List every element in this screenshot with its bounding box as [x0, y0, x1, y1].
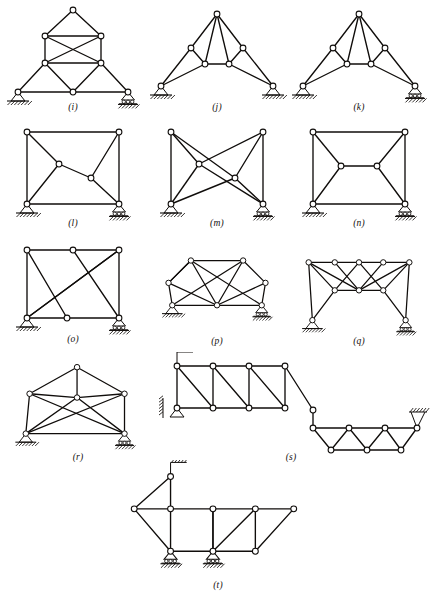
truss-member	[309, 262, 335, 290]
truss-member	[401, 428, 417, 450]
truss-joint	[42, 60, 48, 66]
ground-hatch	[16, 213, 41, 217]
truss-joint	[56, 161, 62, 167]
truss-member	[199, 164, 263, 204]
truss-svg-o	[0, 232, 146, 350]
members	[27, 250, 119, 318]
joints	[131, 474, 296, 555]
truss-joint	[282, 363, 288, 369]
ground-hatch	[292, 95, 317, 99]
figure-label-o: (o)	[0, 334, 146, 344]
truss-joint	[24, 129, 30, 135]
members	[161, 14, 273, 86]
wall-support-hanging	[409, 408, 429, 428]
truss-joint	[170, 303, 175, 308]
truss-member	[303, 64, 347, 86]
truss-joint	[188, 45, 194, 51]
truss-joint	[382, 45, 388, 51]
truss-joint	[70, 247, 76, 253]
ground-hatch	[115, 445, 135, 449]
roller-wheels	[399, 212, 411, 215]
truss-joint	[381, 260, 386, 265]
truss-member	[213, 366, 249, 408]
joints	[310, 129, 408, 207]
truss-member	[177, 366, 213, 408]
ground-hatch	[150, 95, 175, 99]
truss-svg-m	[144, 116, 290, 234]
truss-joint	[381, 288, 386, 293]
joints	[23, 364, 127, 436]
joints	[158, 11, 276, 89]
truss-joint	[412, 83, 418, 89]
truss-member	[349, 428, 367, 450]
wall-support-hatch	[171, 460, 188, 477]
truss-joint	[64, 315, 70, 321]
figure-label-j: (j)	[144, 102, 290, 112]
joints	[24, 129, 122, 207]
truss-member	[385, 48, 415, 86]
truss-member	[91, 178, 119, 204]
truss-diagram-k: (k)	[286, 0, 432, 118]
truss-member	[169, 283, 173, 305]
truss-member	[73, 250, 119, 318]
truss-joint	[158, 83, 164, 89]
truss-diagram-t: (t)	[112, 460, 324, 592]
truss-member	[91, 132, 119, 178]
truss-joint	[122, 391, 128, 397]
truss-diagram-i: (i)	[0, 0, 146, 118]
truss-joint	[168, 201, 174, 207]
roller-wheels	[400, 328, 411, 331]
figure-label-m: (m)	[144, 218, 290, 228]
truss-member	[406, 262, 410, 320]
truss-member	[161, 48, 191, 86]
truss-joint	[226, 61, 232, 67]
truss-diagram-q: (q)	[286, 240, 432, 350]
truss-member	[313, 132, 341, 166]
truss-member	[313, 166, 341, 204]
truss-svg-j	[144, 0, 290, 118]
ground-hatch	[16, 327, 41, 331]
truss-joint	[240, 45, 246, 51]
truss-member	[27, 250, 67, 318]
roller-wheels	[113, 212, 125, 215]
truss-member	[262, 283, 266, 305]
truss-joint	[168, 506, 174, 512]
truss-svg-q	[286, 240, 432, 350]
truss-joint	[98, 33, 104, 39]
members	[303, 14, 415, 86]
truss-joint	[214, 303, 219, 308]
ground-hatch	[162, 314, 185, 318]
truss-joint	[300, 83, 306, 89]
truss-joint	[168, 474, 174, 480]
truss-member	[312, 290, 334, 320]
truss-member	[45, 10, 73, 36]
truss-member	[217, 283, 265, 305]
truss-joint	[168, 129, 174, 135]
roller-wheels	[165, 559, 177, 562]
truss-joint	[23, 431, 29, 437]
figure-label-l: (l)	[0, 218, 146, 228]
joints	[174, 363, 420, 453]
truss-member	[377, 166, 405, 204]
truss-member	[243, 48, 273, 86]
figure-label-n: (n)	[286, 218, 432, 228]
truss-member	[359, 262, 409, 290]
truss-member	[169, 283, 217, 305]
truss-diagram-n: (n)	[286, 116, 432, 234]
joints	[166, 258, 268, 308]
ground-hatch	[302, 213, 327, 217]
truss-svg-t	[112, 460, 324, 592]
truss-member	[383, 290, 405, 320]
truss-joint	[402, 201, 408, 207]
truss-joint	[356, 260, 361, 265]
truss-member	[134, 477, 170, 509]
truss-joint	[116, 201, 122, 207]
truss-joint	[259, 303, 264, 308]
truss-joint	[168, 548, 174, 554]
truss-joint	[116, 247, 122, 253]
members	[18, 10, 128, 92]
truss-joint	[125, 89, 131, 95]
figure-label-p: (p)	[144, 336, 290, 346]
truss-joint	[310, 425, 316, 431]
roller-wheels	[113, 326, 125, 329]
